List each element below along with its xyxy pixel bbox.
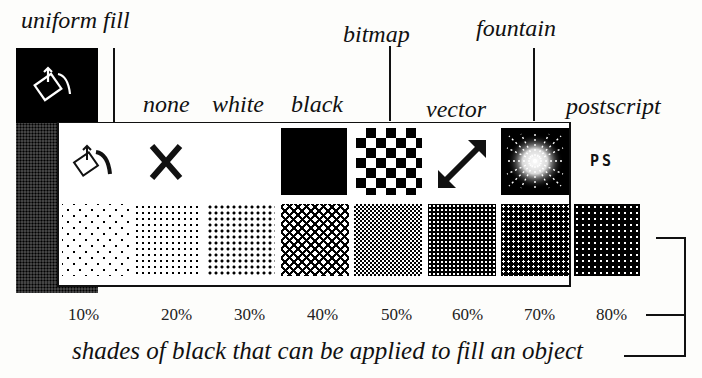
ps-text-icon: PS xyxy=(590,152,614,170)
shade-label-40: 40% xyxy=(307,306,338,323)
shade-label-20: 20% xyxy=(161,306,192,323)
bracket-middle xyxy=(646,314,686,316)
label-white: white xyxy=(212,92,264,116)
radial-burst-icon xyxy=(501,128,569,195)
label-postscript: postscript xyxy=(566,94,661,118)
fill-tool-button[interactable] xyxy=(16,48,98,123)
label-vector: vector xyxy=(426,97,486,121)
none-fill-button[interactable] xyxy=(140,132,208,194)
black-fill-button[interactable] xyxy=(281,128,347,195)
shade-40-swatch[interactable] xyxy=(281,204,349,276)
paint-bucket-icon xyxy=(72,138,122,188)
shade-30-swatch[interactable] xyxy=(207,204,275,276)
bracket-top xyxy=(656,237,686,239)
shade-label-60: 60% xyxy=(452,306,483,323)
leader-fountain xyxy=(533,48,535,121)
shade-label-80: 80% xyxy=(596,306,627,323)
shade-50-swatch[interactable] xyxy=(354,204,422,276)
fountain-fill-button[interactable] xyxy=(501,128,569,195)
vector-fill-button[interactable] xyxy=(430,128,496,195)
flyout-shadow xyxy=(16,123,58,293)
label-none: none xyxy=(143,92,190,116)
diagonal-double-arrow-icon xyxy=(430,128,496,195)
bitmap-fill-button[interactable] xyxy=(356,128,422,195)
label-black: black xyxy=(291,92,343,116)
uniform-fill-button[interactable] xyxy=(70,132,138,194)
x-icon xyxy=(140,132,208,194)
bracket-vertical xyxy=(684,237,686,357)
shade-70-swatch[interactable] xyxy=(501,204,569,276)
white-fill-button[interactable] xyxy=(210,132,278,194)
bracket-bottom xyxy=(624,355,686,357)
caption: shades of black that can be applied to f… xyxy=(72,338,583,363)
shade-60-swatch[interactable] xyxy=(428,204,496,276)
label-fountain: fountain xyxy=(476,16,556,40)
label-uniform-fill: uniform fill xyxy=(21,8,130,32)
label-bitmap: bitmap xyxy=(343,22,410,46)
paint-bucket-icon xyxy=(32,64,82,108)
shade-label-50: 50% xyxy=(381,306,412,323)
shade-20-swatch[interactable] xyxy=(134,204,202,276)
leader-bitmap xyxy=(389,46,391,121)
shade-label-10: 10% xyxy=(68,306,99,323)
shade-label-70: 70% xyxy=(524,306,555,323)
shade-80-swatch[interactable] xyxy=(574,204,640,276)
shade-label-30: 30% xyxy=(234,306,265,323)
shade-10-swatch[interactable] xyxy=(62,204,130,276)
